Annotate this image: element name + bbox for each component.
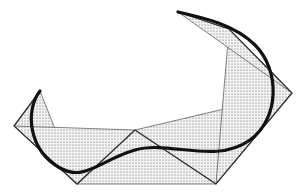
stippled-triangles [14, 12, 292, 184]
spline-diagram [0, 0, 307, 196]
